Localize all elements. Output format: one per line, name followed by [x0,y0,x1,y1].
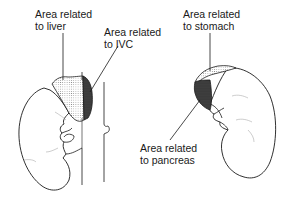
label-pancreas: Area related to pancreas [140,142,197,166]
left-kidney-group [209,68,275,178]
leader-line-pancreas [170,100,200,140]
left-suprarenal-pancreas-area [194,80,211,110]
right-renal-vessels [62,113,82,185]
left-renal-vessels [210,104,228,130]
label-stomach-line2: to stomach [183,20,240,32]
label-pancreas-line1: Area related [140,142,197,154]
left-kidney [209,68,275,178]
label-pancreas-line2: to pancreas [140,154,197,166]
label-stomach-line1: Area related [183,8,240,20]
label-liver: Area related to liver [35,8,92,32]
right-kidney [19,88,70,190]
label-liver-line1: Area related [35,8,92,20]
label-ivc: Area related to IVC [104,26,161,50]
label-ivc-line1: Area related [104,26,161,38]
suprarenal-relations-diagram: Area related to liver Area related to IV… [0,0,286,203]
label-ivc-line2: to IVC [104,38,161,50]
label-liver-line2: to liver [35,20,92,32]
label-stomach: Area related to stomach [183,8,240,32]
right-suprarenal-ivc-area [83,76,92,120]
